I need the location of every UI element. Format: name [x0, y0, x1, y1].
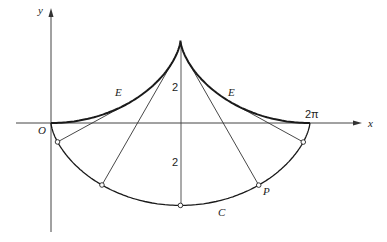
point-P-label: P: [262, 185, 270, 197]
cycloid-label: C: [218, 206, 226, 218]
origin-label: O: [38, 124, 46, 136]
evolute-curve-E: [51, 41, 310, 123]
point-marker: [100, 183, 105, 188]
normal-points: [55, 140, 305, 208]
x-axis-arrow-icon: [353, 121, 362, 126]
point-marker: [256, 183, 261, 188]
two-pi-tick-label: 2π: [305, 108, 319, 120]
cycloid-evolute-diagram: x y O 2π E E C P 2 2: [0, 0, 387, 242]
height-label-lower: 2: [172, 156, 178, 168]
cycloid-curve-C: [51, 123, 310, 205]
point-marker: [55, 140, 60, 145]
x-axis-label: x: [367, 117, 373, 129]
evolute-label-left: E: [114, 86, 122, 98]
evolute-label-right: E: [227, 86, 235, 98]
y-axis-arrow-icon: [49, 8, 54, 17]
height-label-upper: 2: [172, 81, 178, 93]
y-axis-label: y: [37, 4, 43, 16]
point-marker: [178, 203, 183, 208]
point-marker: [301, 140, 306, 145]
axes: x y O 2π: [16, 4, 373, 232]
